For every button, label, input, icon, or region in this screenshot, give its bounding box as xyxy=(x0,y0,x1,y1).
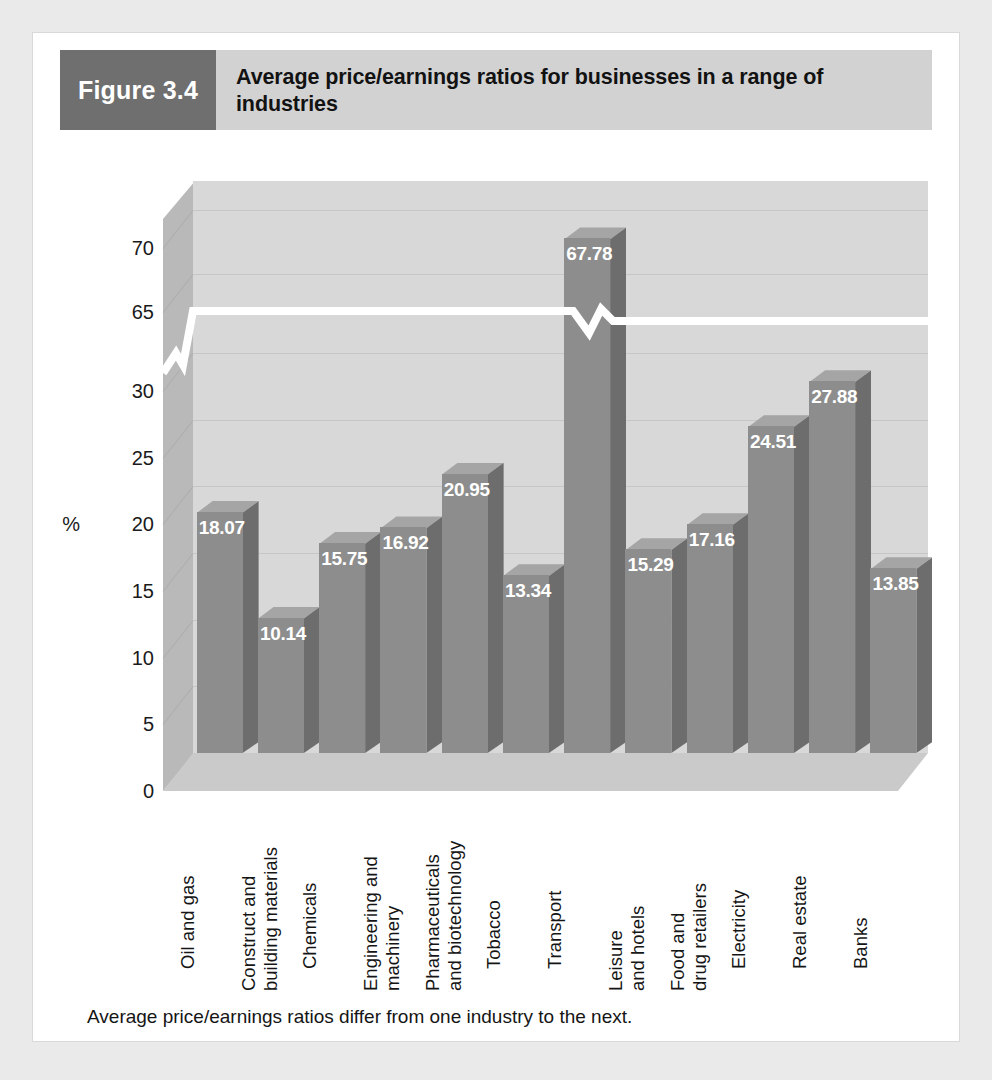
bar[interactable] xyxy=(564,238,610,753)
y-axis-tick-10: 10 xyxy=(108,646,154,669)
bar-front-face xyxy=(748,426,794,753)
x-axis-category-label: Leisure xyxy=(605,930,627,991)
bar-side-face xyxy=(488,463,504,753)
x-axis-category-label: Real estate xyxy=(789,875,811,969)
x-axis-category-label: Construct and xyxy=(238,876,260,991)
bar-side-face xyxy=(549,564,565,753)
x-axis-category-label: Electricity xyxy=(728,890,750,969)
bar-value-label: 17.16 xyxy=(689,529,735,551)
bar-front-face xyxy=(319,543,365,753)
bar-side-face xyxy=(304,607,320,753)
y-axis-tick-25: 25 xyxy=(108,446,154,469)
y-axis-tick-70: 70 xyxy=(108,237,154,260)
x-axis-category-label: Tobacco xyxy=(483,900,505,969)
x-axis-category-labels: Oil and gasConstruct andbuilding materia… xyxy=(163,801,928,1001)
bar-value-label: 24.51 xyxy=(750,431,796,453)
bar-front-face xyxy=(197,512,243,753)
bar-front-face xyxy=(564,238,610,753)
bar-series: 18.0710.1415.7516.9220.9513.3467.7815.29… xyxy=(163,181,928,791)
figure-title: Average price/earnings ratios for busine… xyxy=(236,64,926,118)
y-axis-tick-0: 0 xyxy=(108,780,154,803)
bar-side-face xyxy=(610,227,626,753)
x-axis-category-label: drug retailers xyxy=(689,883,711,991)
bar[interactable] xyxy=(687,524,733,753)
y-axis-tick-20: 20 xyxy=(108,513,154,536)
bar[interactable] xyxy=(319,543,365,753)
y-axis-tick-15: 15 xyxy=(108,580,154,603)
y-axis-unit-label: % xyxy=(50,513,80,536)
page-background: Figure 3.4 Average price/earnings ratios… xyxy=(0,0,992,1080)
bar-value-label: 20.95 xyxy=(444,479,490,501)
bar-value-label: 15.75 xyxy=(321,548,367,570)
bar-side-face xyxy=(855,370,871,753)
bar[interactable] xyxy=(625,549,671,753)
bar-front-face xyxy=(870,568,916,753)
y-axis-tick-labels: 0510152025306570% xyxy=(78,143,154,995)
bar-front-face xyxy=(442,474,488,753)
bar-side-face xyxy=(426,516,442,753)
bar-side-face xyxy=(365,532,381,753)
bar[interactable] xyxy=(442,474,488,753)
x-axis-category-label: Engineering and xyxy=(360,856,382,991)
figure-header: Figure 3.4 Average price/earnings ratios… xyxy=(60,50,932,130)
x-axis-category-label: and biotechnology xyxy=(444,841,466,991)
figure-caption: Average price/earnings ratios differ fro… xyxy=(87,1006,632,1028)
bar-value-label: 18.07 xyxy=(199,517,245,539)
bar[interactable] xyxy=(380,527,426,753)
x-axis-category-label: Pharmaceuticals xyxy=(422,854,444,991)
bar-side-face xyxy=(916,557,932,753)
bar-side-face xyxy=(243,501,259,753)
x-axis-category-label: and hotels xyxy=(627,906,649,991)
bar-value-label: 67.78 xyxy=(566,243,612,265)
y-axis-tick-65: 65 xyxy=(108,301,154,324)
bar-value-label: 13.85 xyxy=(872,573,918,595)
bar-value-label: 13.34 xyxy=(505,580,551,602)
x-axis-category-label: Oil and gas xyxy=(177,875,199,969)
bar-side-face xyxy=(733,513,749,753)
x-axis-category-label: Food and xyxy=(667,913,689,991)
x-axis-category-label: Chemicals xyxy=(299,883,321,969)
x-axis-category-label: Banks xyxy=(850,918,872,969)
bar-value-label: 27.88 xyxy=(811,386,857,408)
chart-plot-region: 0510152025306570% 18.0710.1415.7516.9220… xyxy=(60,143,932,995)
figure-number-badge: Figure 3.4 xyxy=(60,50,216,130)
bar-front-face xyxy=(625,549,671,753)
bar[interactable] xyxy=(197,512,243,753)
chart-3d-plot: 18.0710.1415.7516.9220.9513.3467.7815.29… xyxy=(163,181,928,791)
bar-side-face xyxy=(671,538,687,753)
bar-front-face xyxy=(809,381,855,753)
bar-value-label: 15.29 xyxy=(627,554,673,576)
bar-value-label: 16.92 xyxy=(382,532,428,554)
x-axis-category-label: Transport xyxy=(544,891,566,969)
y-axis-tick-30: 30 xyxy=(108,380,154,403)
bar-side-face xyxy=(794,415,810,753)
bar[interactable] xyxy=(748,426,794,753)
bar-value-label: 10.14 xyxy=(260,623,306,645)
x-axis-category-label: building materials xyxy=(260,847,282,991)
figure-card: Figure 3.4 Average price/earnings ratios… xyxy=(32,32,960,1042)
bar-front-face xyxy=(380,527,426,753)
bar-front-face xyxy=(687,524,733,753)
y-axis-tick-5: 5 xyxy=(108,713,154,736)
x-axis-category-label: machinery xyxy=(382,906,404,991)
bar[interactable] xyxy=(870,568,916,753)
bar[interactable] xyxy=(809,381,855,753)
